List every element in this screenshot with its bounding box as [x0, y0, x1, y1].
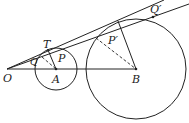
label-b: B	[131, 73, 140, 86]
label-p: P	[57, 52, 66, 65]
label-q: Q	[30, 57, 38, 67]
point-q-prime	[152, 16, 155, 19]
label-a: A	[51, 73, 60, 86]
point-b	[135, 68, 138, 71]
label-p-prime: P′	[107, 34, 118, 47]
point-a	[55, 68, 58, 71]
radius-b-tangent	[118, 21, 136, 69]
label-q-prime: Q′	[150, 3, 162, 16]
label-o: O	[3, 72, 12, 85]
geometry-diagram: O A B T P Q P′ Q′	[0, 0, 189, 123]
